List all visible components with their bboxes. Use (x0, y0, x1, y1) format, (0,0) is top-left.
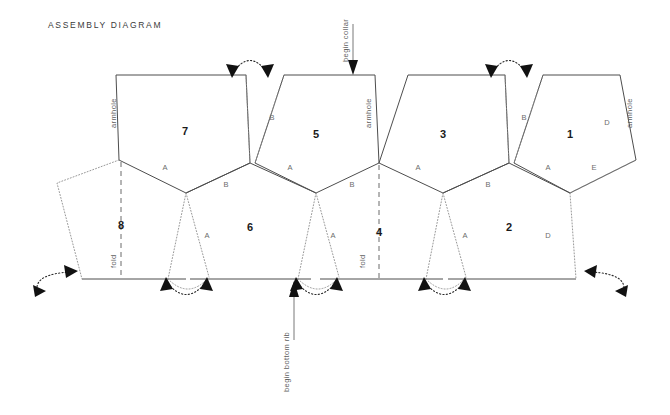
annotation-fold-left: fold (109, 254, 118, 268)
edge-letter: B (485, 180, 490, 189)
panel-number-2: 2 (506, 221, 512, 233)
arrowhead-icon (615, 285, 628, 297)
arrowhead-icon (584, 265, 597, 278)
join-arc-top-left (226, 61, 274, 79)
assembly-diagram-canvas: 1 2 3 4 5 6 7 8 A B A B A A B A B A B A … (0, 0, 670, 415)
panel-numbers: 1 2 3 4 5 6 7 8 (118, 125, 573, 238)
annotation-begin-collar: begin collar (341, 19, 350, 62)
panel-number-6: 6 (247, 221, 253, 233)
tongue-4-2-left (426, 193, 443, 279)
callout-pointers (289, 24, 358, 340)
panel-6-upper-edges (186, 163, 316, 193)
edge-letter: B (521, 113, 526, 122)
panel-1-outline (514, 75, 636, 193)
annotation-fold-center: fold (358, 254, 367, 268)
edge-letter: A (415, 163, 420, 172)
arrowhead-icon (226, 64, 239, 78)
panel-2-right-flap-lower (570, 193, 576, 279)
edge-letter: B (269, 113, 274, 122)
join-arc-bottom-2 (290, 277, 343, 295)
tongue-8-6-left (168, 193, 186, 279)
panel-number-7: 7 (182, 125, 188, 137)
panel-outlines-upper (116, 75, 636, 193)
panel-number-1: 1 (567, 128, 573, 140)
annotation-armhole-right: armhole (625, 98, 634, 128)
panel-number-4: 4 (376, 226, 383, 238)
arc-path (37, 272, 70, 289)
panel-number-8: 8 (118, 219, 124, 231)
annotation-armhole-left: armhole (109, 98, 118, 128)
tongue-6-4-left (298, 193, 316, 279)
arrowhead-icon (33, 285, 46, 297)
edge-letter: A (287, 163, 292, 172)
arrowhead-icon (64, 265, 78, 278)
panel-2-upper-edges (443, 163, 570, 193)
arrowhead-icon (485, 64, 498, 78)
edge-letter: A (162, 163, 167, 172)
join-arc-side-right (584, 265, 628, 297)
edge-letter: A (330, 231, 335, 240)
edge-letter: B (349, 180, 354, 189)
edge-letter: A (462, 231, 467, 240)
annotation-armhole-center: armhole (364, 98, 373, 128)
tongue-6-4-right (316, 193, 339, 277)
edge-letter: E (591, 163, 596, 172)
arrowhead-icon (261, 64, 274, 78)
panel-number-5: 5 (313, 128, 319, 140)
edge-letter: B (223, 180, 228, 189)
edge-letter: D (545, 231, 551, 240)
edge-letter: A (545, 163, 550, 172)
join-arc-bottom-1 (160, 277, 213, 295)
join-arcs (33, 61, 628, 298)
edge-letter-labels: A B A B A A B A B A B A E D D (162, 113, 610, 240)
join-arc-bottom-3 (418, 277, 471, 295)
arc-path (592, 272, 624, 289)
join-arc-side-left (33, 265, 78, 297)
panel-outlines-lower (82, 163, 576, 279)
edge-letter: A (204, 231, 209, 240)
edge-letter: D (604, 118, 610, 127)
panel-number-3: 3 (440, 128, 446, 140)
join-arc-top-right (485, 61, 533, 79)
arrowhead-icon (520, 64, 533, 78)
annotation-begin-bottom-rib: begin bottom rib (282, 332, 291, 392)
